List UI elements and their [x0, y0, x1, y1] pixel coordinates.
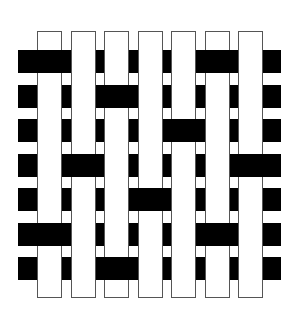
weft-over-crossing — [36, 50, 63, 73]
weft-over-crossing — [204, 223, 231, 246]
weave-diagram — [0, 0, 299, 324]
weft-over-crossing — [36, 223, 63, 246]
warp-thread — [171, 31, 196, 298]
weft-over-crossing — [137, 188, 164, 211]
warp-thread — [138, 31, 163, 298]
weft-over-crossing — [103, 85, 130, 108]
weft-over-crossing — [103, 257, 130, 280]
weft-over-crossing — [204, 50, 231, 73]
weft-over-crossing — [170, 119, 197, 142]
weft-over-crossing — [70, 154, 97, 177]
weft-over-crossing — [237, 154, 264, 177]
